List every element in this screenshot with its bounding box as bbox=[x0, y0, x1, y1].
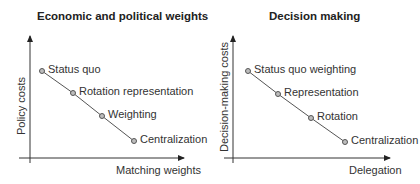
right-y-axis-label: Decision-making costs bbox=[218, 42, 230, 152]
point-label-status-quo-weighting: Status quo weighting bbox=[254, 63, 356, 75]
left-trend-line bbox=[42, 71, 134, 141]
left-panel-title: Economic and political weights bbox=[37, 10, 208, 22]
point-label-status-quo: Status quo bbox=[48, 63, 101, 75]
marker-weighting bbox=[100, 114, 105, 119]
left-x-axis-label: Matching weights bbox=[116, 164, 201, 176]
point-label-weighting: Weighting bbox=[108, 108, 157, 120]
point-label-centralization: Centralization bbox=[140, 133, 207, 145]
marker-rotation-representation bbox=[71, 91, 76, 96]
marker-centralization bbox=[132, 139, 137, 144]
marker-rotation bbox=[309, 116, 314, 121]
point-label-representation: Representation bbox=[284, 86, 359, 98]
marker-centralization-right bbox=[343, 140, 348, 145]
point-label-rotation-representation: Rotation representation bbox=[79, 85, 193, 97]
marker-status-quo-weighting bbox=[246, 69, 251, 74]
right-panel-title: Decision making bbox=[269, 10, 360, 22]
point-label-centralization-right: Centralization bbox=[351, 134, 418, 146]
point-label-rotation: Rotation bbox=[317, 110, 358, 122]
right-x-axis-label: Delegation bbox=[349, 164, 402, 176]
marker-representation bbox=[276, 92, 281, 97]
right-trend-line bbox=[248, 71, 345, 142]
left-y-axis-label: Policy costs bbox=[15, 77, 27, 135]
marker-status-quo bbox=[40, 69, 45, 74]
